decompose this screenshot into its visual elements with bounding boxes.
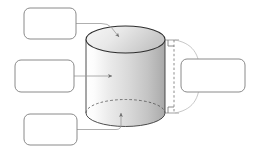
top-face-label-box-frame[interactable]	[24, 8, 76, 39]
top-face-label-box[interactable]	[24, 8, 76, 39]
height-dimension-line	[164, 40, 179, 113]
right-angle-marker-bottom	[168, 107, 174, 113]
bottom-face-label-box-frame[interactable]	[24, 114, 77, 145]
right-angle-marker-top	[168, 40, 174, 46]
diagram-canvas	[0, 0, 255, 158]
cylinder-labelling-diagram	[0, 0, 255, 158]
height-label-box[interactable]	[181, 59, 245, 92]
bottom-face-label-box[interactable]	[24, 114, 77, 145]
lateral-surface-label-box[interactable]	[15, 60, 74, 92]
top-circular-face	[86, 26, 165, 53]
lateral-surface-label-box-frame[interactable]	[15, 60, 74, 92]
height-label-box-frame[interactable]	[181, 59, 245, 92]
